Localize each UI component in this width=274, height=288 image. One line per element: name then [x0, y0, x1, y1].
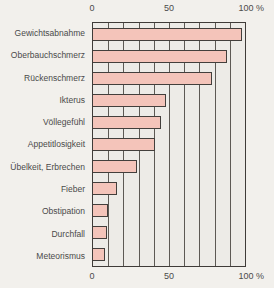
- bottom-axis: 0 50 100 %: [92, 271, 246, 283]
- bar-row: [93, 23, 245, 45]
- bar: [93, 138, 155, 151]
- category-label: Völlegefühl: [0, 111, 89, 133]
- top-axis-tick-100: 100: [238, 3, 253, 13]
- category-label: Appetitlosigkeit: [0, 133, 89, 155]
- bar-row: [93, 156, 245, 178]
- bar: [93, 116, 161, 129]
- bar-row: [93, 200, 245, 222]
- bar: [93, 160, 137, 173]
- bar-row: [93, 178, 245, 200]
- bar: [93, 226, 107, 239]
- bar: [93, 50, 227, 63]
- top-axis-unit-label: %: [256, 3, 264, 13]
- bar: [93, 182, 117, 195]
- bar-row: [93, 67, 245, 89]
- bar-row: [93, 89, 245, 111]
- bar-row: [93, 133, 245, 155]
- bottom-axis-unit-label: %: [256, 271, 264, 281]
- bottom-axis-tick-100: 100: [238, 271, 253, 281]
- category-labels: GewichtsabnahmeOberbauchschmerzRückensch…: [0, 22, 89, 267]
- top-axis: 0 50 100 %: [92, 3, 246, 15]
- category-label: Gewichtsabnahme: [0, 22, 89, 44]
- top-axis-tick-50: 50: [164, 3, 174, 13]
- category-label: Durchfall: [0, 222, 89, 244]
- category-label: Obstipation: [0, 200, 89, 222]
- bar-row: [93, 111, 245, 133]
- bottom-axis-tick-0: 0: [89, 271, 94, 281]
- bar-series: [93, 23, 245, 266]
- bar-row: [93, 222, 245, 244]
- bar: [93, 94, 166, 107]
- bar: [93, 28, 242, 41]
- category-label: Meteorismus: [0, 245, 89, 267]
- plot-area: [92, 22, 246, 267]
- category-label: Ikterus: [0, 89, 89, 111]
- top-axis-tick-0: 0: [89, 3, 94, 13]
- bottom-axis-tick-50: 50: [164, 271, 174, 281]
- bar: [93, 204, 108, 217]
- bar-row: [93, 244, 245, 266]
- category-label: Fieber: [0, 178, 89, 200]
- category-label: Übelkeit, Erbrechen: [0, 156, 89, 178]
- bar-row: [93, 45, 245, 67]
- scanned-bar-chart: 0 50 100 % GewichtsabnahmeOberbauchschme…: [0, 0, 274, 288]
- category-label: Oberbauchschmerz: [0, 44, 89, 66]
- bar: [93, 248, 105, 261]
- category-label: Rückenschmerz: [0, 67, 89, 89]
- bar: [93, 72, 212, 85]
